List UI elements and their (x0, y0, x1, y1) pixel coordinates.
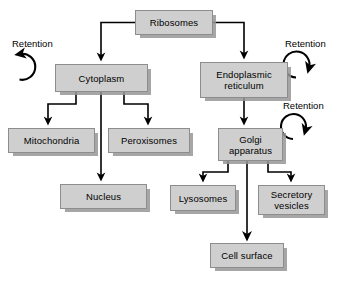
edge-ribosomes-er (213, 23, 244, 56)
node-label-cell-surface: Cell surface (221, 250, 272, 261)
node-label-cytoplasm: Cytoplasm (79, 73, 125, 84)
edge-golgi-lysosomes (203, 161, 228, 178)
node-ribosomes[interactable]: Ribosomes (135, 10, 213, 35)
node-label-peroxisomes: Peroxisomes (121, 135, 177, 146)
retention-label-er: Retention (285, 38, 326, 49)
node-golgi-apparatus[interactable]: Golgi apparatus (218, 128, 283, 161)
node-cytoplasm[interactable]: Cytoplasm (55, 64, 148, 92)
node-cell-surface[interactable]: Cell surface (210, 243, 284, 268)
node-label-golgi-apparatus: Golgi apparatus (229, 134, 272, 156)
edge-ribosomes-cytoplasm (101, 23, 135, 58)
node-label-secretory-vesicles: Secretory vesicles (271, 189, 313, 211)
node-label-nucleus: Nucleus (86, 191, 121, 202)
edge-golgi-secretory (268, 161, 291, 178)
cell-protein-sorting-diagram: Ribosomes Cytoplasm Endoplasmic reticulu… (0, 0, 339, 285)
node-secretory-vesicles[interactable]: Secretory vesicles (258, 185, 325, 215)
node-nucleus[interactable]: Nucleus (60, 184, 147, 209)
node-peroxisomes[interactable]: Peroxisomes (108, 128, 190, 153)
retention-label-cytoplasm: Retention (12, 38, 53, 49)
node-label-mitochondria: Mitochondria (24, 135, 80, 146)
node-lysosomes[interactable]: Lysosomes (170, 185, 236, 211)
node-label-endoplasmic-reticulum: Endoplasmic reticulum (216, 69, 272, 91)
retention-loop-cytoplasm (20, 54, 36, 80)
retention-loop-golgi (281, 114, 306, 139)
edge-cytoplasm-mitochondria (48, 92, 76, 121)
edge-cytoplasm-peroxisomes (124, 92, 148, 121)
node-label-lysosomes: Lysosomes (179, 193, 228, 204)
node-label-ribosomes: Ribosomes (150, 17, 198, 28)
retention-label-golgi: Retention (283, 100, 324, 111)
node-mitochondria[interactable]: Mitochondria (8, 128, 95, 153)
node-endoplasmic-reticulum[interactable]: Endoplasmic reticulum (200, 62, 288, 98)
